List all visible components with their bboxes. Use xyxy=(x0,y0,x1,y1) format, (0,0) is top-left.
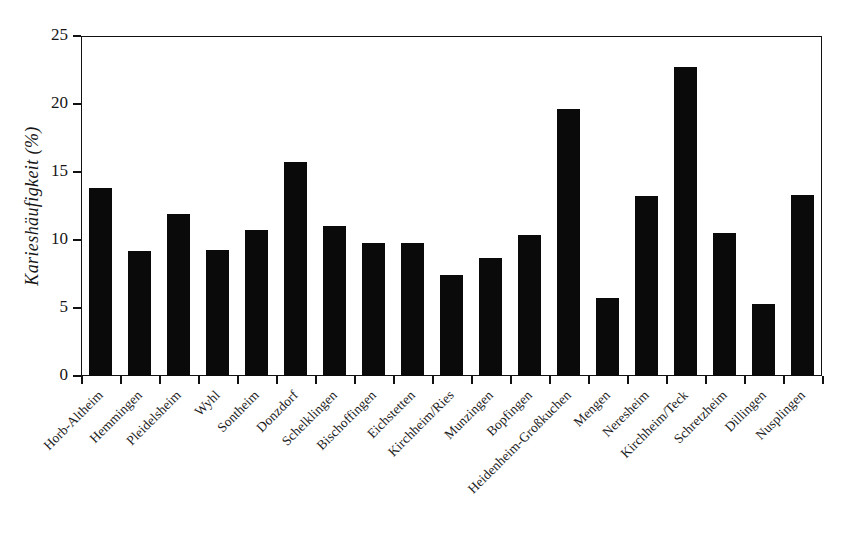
y-axis-title: Karieshäufigkeit (%) xyxy=(14,36,50,376)
x-tick-mark xyxy=(159,376,161,384)
x-tick-mark xyxy=(510,376,512,384)
x-tick-mark xyxy=(588,376,590,384)
x-tick-mark xyxy=(81,376,83,384)
y-tick-label: 25 xyxy=(51,25,68,45)
bar xyxy=(245,230,267,376)
x-tick-mark xyxy=(198,376,200,384)
bar xyxy=(713,233,735,376)
y-tick-label: 20 xyxy=(51,93,68,113)
x-tick-mark xyxy=(783,376,785,384)
bar xyxy=(323,226,345,376)
bar xyxy=(284,162,306,376)
bar xyxy=(635,196,657,376)
x-tick-mark xyxy=(120,376,122,384)
x-tick-mark xyxy=(744,376,746,384)
y-tick-mark xyxy=(73,375,81,377)
y-tick-mark xyxy=(73,239,81,241)
x-tick-mark xyxy=(549,376,551,384)
y-tick-mark xyxy=(73,35,81,37)
bar-series xyxy=(81,36,822,376)
x-tick-mark xyxy=(315,376,317,384)
bar xyxy=(440,275,462,376)
y-tick-label: 0 xyxy=(60,365,69,385)
x-tick-mark xyxy=(627,376,629,384)
x-tick-mark xyxy=(705,376,707,384)
bar xyxy=(479,258,501,376)
x-tick-mark xyxy=(432,376,434,384)
x-tick-mark xyxy=(393,376,395,384)
x-tick-mark xyxy=(822,376,824,384)
bar xyxy=(674,67,696,376)
x-tick-mark xyxy=(237,376,239,384)
x-tick-mark xyxy=(354,376,356,384)
x-tick-mark xyxy=(471,376,473,384)
bar xyxy=(791,195,813,376)
y-tick-mark xyxy=(73,103,81,105)
bar xyxy=(89,188,111,376)
x-tick-mark xyxy=(276,376,278,384)
bar xyxy=(362,243,384,376)
chart-figure: Karieshäufigkeit (%) 0510152025 Horb-Alt… xyxy=(0,0,846,548)
bar xyxy=(128,251,150,376)
y-tick-label: 5 xyxy=(60,297,69,317)
bar xyxy=(401,243,423,376)
y-tick-mark xyxy=(73,307,81,309)
x-tick-mark xyxy=(666,376,668,384)
y-tick-label: 10 xyxy=(51,229,68,249)
bar xyxy=(518,235,540,376)
y-tick-label: 15 xyxy=(51,161,68,181)
bar xyxy=(557,109,579,376)
bar xyxy=(752,304,774,376)
y-tick-mark xyxy=(73,171,81,173)
bar xyxy=(596,298,618,376)
bar xyxy=(167,214,189,376)
bar xyxy=(206,250,228,376)
